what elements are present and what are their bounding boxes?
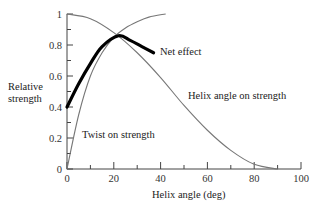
- y-tick-label: 1: [57, 9, 62, 20]
- x-tick-label: 80: [249, 173, 260, 184]
- y-tick-label: 0.6: [49, 71, 62, 82]
- y-tick-label: 0.8: [49, 40, 62, 51]
- y-axis-label-line1: Relative: [8, 82, 43, 93]
- annotation-net-effect: Net effect: [160, 47, 202, 58]
- x-tick-label: 40: [155, 173, 166, 184]
- x-tick-label: 0: [64, 173, 69, 184]
- annotation-helix-angle: Helix angle on strength: [188, 91, 286, 102]
- x-tick-label: 20: [109, 173, 120, 184]
- annotation-twist: Twist on strength: [82, 130, 155, 141]
- x-tick-label: 100: [293, 173, 309, 184]
- y-tick-label: 0.4: [49, 102, 63, 113]
- y-tick-label: 0.2: [49, 133, 62, 144]
- chart-plot: 02040608010000.20.40.60.81: [0, 0, 317, 207]
- y-tick-label: 0: [57, 164, 62, 175]
- series-net-effect: [67, 36, 154, 107]
- y-axis-label-line2: strength: [8, 94, 42, 105]
- x-tick-label: 60: [202, 173, 213, 184]
- x-axis-label: Helix angle (deg): [152, 190, 225, 201]
